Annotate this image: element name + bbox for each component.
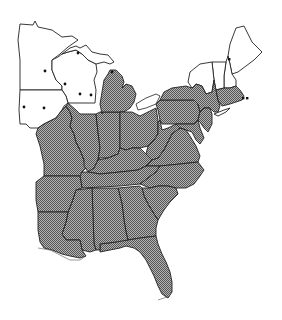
state-pennsylvania	[156, 100, 200, 124]
state-new-england-south	[216, 86, 244, 106]
record-square	[242, 97, 244, 99]
record-dot	[44, 70, 47, 73]
record-dot	[43, 107, 46, 110]
record-dot	[77, 52, 80, 55]
record-square	[228, 58, 230, 60]
record-dot	[64, 83, 67, 86]
record-dot	[79, 93, 82, 96]
range-map	[0, 0, 282, 320]
record-dot	[111, 71, 114, 74]
state-michigan-lower	[100, 70, 136, 114]
state-maine	[228, 26, 262, 74]
record-square	[246, 97, 248, 99]
state-florida	[100, 236, 172, 298]
lake-erie	[136, 94, 160, 110]
record-dot	[23, 106, 26, 109]
state-indiana	[96, 112, 120, 160]
record-dot	[90, 94, 93, 97]
